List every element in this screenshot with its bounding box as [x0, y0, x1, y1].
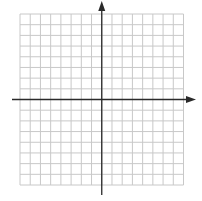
- coordinate-plane: [0, 0, 202, 201]
